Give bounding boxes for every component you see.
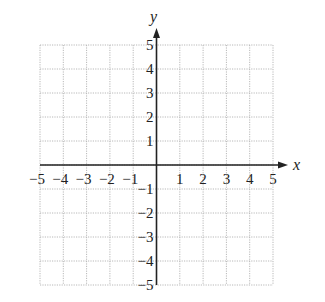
y-tick-label: −2 xyxy=(138,205,154,221)
y-tick-label: −3 xyxy=(138,229,154,245)
x-tick-label: −3 xyxy=(76,171,92,187)
x-tick-label: 3 xyxy=(223,171,231,187)
x-tick-label: 1 xyxy=(176,171,184,187)
x-axis-arrow-icon xyxy=(278,162,288,169)
y-axis-label: y xyxy=(148,8,158,26)
x-tick-label: 4 xyxy=(246,171,254,187)
y-tick-label: 2 xyxy=(146,109,154,125)
x-tick-label: −5 xyxy=(29,171,45,187)
x-tick-label: 5 xyxy=(269,171,277,187)
y-tick-label: 4 xyxy=(146,61,154,77)
y-tick-label: −1 xyxy=(138,181,154,197)
x-axis-label: x xyxy=(292,156,300,173)
coordinate-plane: −5−4−3−2−112345 54321−1−2−3−4−5 x y xyxy=(0,0,325,302)
y-tick-label: 3 xyxy=(146,85,154,101)
x-tick-label: −2 xyxy=(99,171,115,187)
x-tick-label: 2 xyxy=(199,171,207,187)
y-tick-label: 5 xyxy=(146,37,154,53)
y-tick-label: −5 xyxy=(138,277,154,293)
x-tick-label: −1 xyxy=(122,171,138,187)
axes xyxy=(40,28,288,285)
y-axis-arrow-icon xyxy=(153,28,160,38)
y-tick-label: −4 xyxy=(138,253,154,269)
y-tick-label: 1 xyxy=(146,133,154,149)
x-tick-label: −4 xyxy=(52,171,68,187)
